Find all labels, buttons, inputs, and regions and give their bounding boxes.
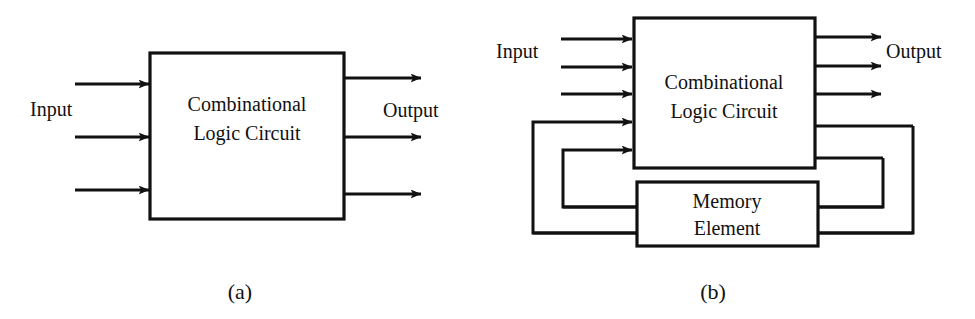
block-diagram-figure: Input Combinational Logic Circuit Output… <box>0 0 975 319</box>
panel-b-logic-block-line2: Logic Circuit <box>670 100 778 123</box>
panel-a-logic-block-line2: Logic Circuit <box>193 122 301 145</box>
panel-a-input-label: Input <box>30 98 73 121</box>
panel-b-memory-block-line2: Element <box>694 217 761 239</box>
panel-a-output-arrows <box>344 78 421 194</box>
panel-b-input-arrows <box>561 39 632 94</box>
panel-a: Input Combinational Logic Circuit Output… <box>30 53 439 304</box>
panel-a-output-label: Output <box>383 99 439 122</box>
figure-canvas: Input Combinational Logic Circuit Output… <box>0 0 975 319</box>
panel-b-output-arrows <box>815 37 881 94</box>
panel-b-caption: (b) <box>700 279 726 304</box>
panel-b-input-label: Input <box>496 40 539 63</box>
panel-a-input-arrows <box>75 84 149 190</box>
panel-b-output-label: Output <box>886 40 942 63</box>
panel-a-logic-block-line1: Combinational <box>188 93 307 115</box>
panel-b-logic-block-line1: Combinational <box>665 71 784 93</box>
panel-a-caption: (a) <box>228 279 252 304</box>
panel-b: Input Combinational Logic Circuit Memory… <box>496 18 942 304</box>
panel-b-memory-block-line1: Memory <box>693 190 762 213</box>
panel-b-logic-block <box>634 18 815 168</box>
